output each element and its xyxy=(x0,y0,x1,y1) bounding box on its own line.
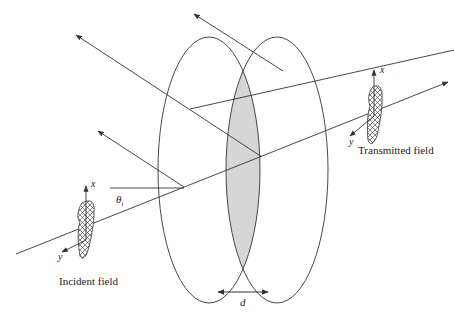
incident-field-label: Incident field xyxy=(59,275,118,287)
thickness-label: d xyxy=(240,296,246,308)
theta-subscript: i xyxy=(121,200,123,208)
transmitted-field-glyph xyxy=(350,70,382,143)
transmitted-field-label: Transmitted field xyxy=(358,144,434,156)
reflected-ray-1 xyxy=(98,131,184,187)
transmitted-y-axis-label: y xyxy=(349,136,353,147)
incident-x-axis-label: x xyxy=(91,178,95,189)
reflected-ray-3 xyxy=(194,14,283,71)
incident-y-axis-label: y xyxy=(58,251,62,262)
incident-field-glyph xyxy=(62,186,94,258)
slab-diagram xyxy=(0,0,454,313)
transmitted-ray-upper xyxy=(190,50,454,109)
transmitted-x-axis-label: x xyxy=(380,64,384,75)
slab-overlap-region xyxy=(226,37,328,303)
incidence-angle-label: θi xyxy=(116,193,123,208)
